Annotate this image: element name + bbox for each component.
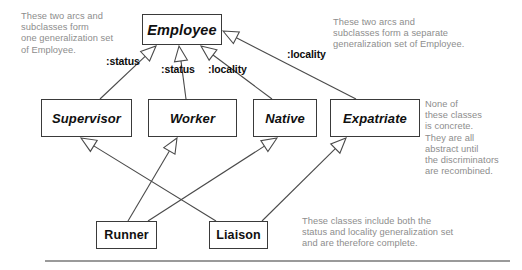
class-name-worker: Worker bbox=[170, 111, 215, 126]
class-box-runner[interactable]: Runner bbox=[96, 221, 157, 249]
note-right-top: These two arcs and subclasses form a sep… bbox=[333, 17, 464, 51]
discriminator-label-locality-native: :locality bbox=[208, 63, 247, 75]
class-box-native[interactable]: Native bbox=[253, 99, 317, 137]
generalization-line-native-to-employee bbox=[213, 55, 272, 99]
bottom-divider-rule bbox=[45, 260, 510, 262]
generalization-arrowhead-runner-to-worker bbox=[164, 138, 177, 154]
class-box-employee[interactable]: Employee bbox=[142, 14, 222, 45]
generalization-arrowhead-native-to-employee bbox=[201, 46, 217, 60]
note-complete: These classes include both the status an… bbox=[302, 216, 453, 250]
class-name-employee: Employee bbox=[147, 22, 216, 38]
class-name-runner: Runner bbox=[104, 228, 148, 242]
uml-diagram-canvas: EmployeeSupervisorWorkerNativeExpatriate… bbox=[0, 0, 522, 270]
class-box-liaison[interactable]: Liaison bbox=[209, 221, 268, 249]
generalization-line-liaison-to-supervisor bbox=[94, 146, 216, 221]
class-name-liaison: Liaison bbox=[216, 228, 260, 242]
class-box-worker[interactable]: Worker bbox=[148, 99, 237, 137]
generalization-line-liaison-to-expatriate bbox=[262, 149, 335, 221]
generalization-arrowhead-liaison-to-supervisor bbox=[81, 138, 97, 151]
discriminator-label-status-supervisor: :status bbox=[106, 55, 140, 67]
class-name-native: Native bbox=[265, 111, 305, 126]
discriminator-label-status-worker: :status bbox=[161, 63, 195, 75]
generalization-arrowhead-runner-to-native bbox=[261, 138, 277, 152]
class-box-supervisor[interactable]: Supervisor bbox=[41, 99, 132, 137]
generalization-arrowhead-worker-to-employee bbox=[175, 46, 188, 62]
generalization-line-runner-to-worker bbox=[128, 151, 169, 221]
class-name-expatriate: Expatriate bbox=[343, 111, 407, 126]
class-name-supervisor: Supervisor bbox=[52, 111, 121, 126]
generalization-arrowhead-expatriate-to-employee bbox=[223, 31, 239, 44]
discriminator-label-locality-expat: :locality bbox=[287, 48, 326, 60]
note-abstract: None of these classes is concrete. They … bbox=[425, 99, 499, 177]
class-box-expatriate[interactable]: Expatriate bbox=[330, 99, 420, 137]
note-left: These two arcs and subclasses form one g… bbox=[21, 11, 113, 56]
